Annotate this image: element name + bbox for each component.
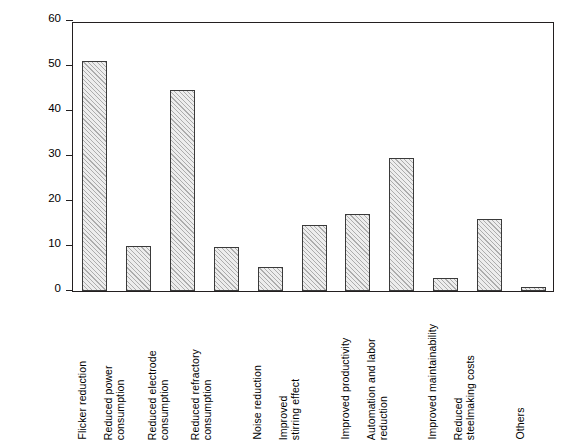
bar xyxy=(214,247,239,291)
bar-slot xyxy=(126,23,151,291)
y-axis-tick: 0 xyxy=(66,290,73,291)
bar-slot xyxy=(345,23,370,291)
x-axis-label-text: Others xyxy=(515,408,527,440)
x-axis-label-text: Noise reduction xyxy=(252,366,264,440)
bar-slot xyxy=(389,23,414,291)
bar xyxy=(170,90,195,291)
bar xyxy=(126,246,151,291)
x-axis-label: Others xyxy=(502,296,562,440)
x-axis-label-text: Reducedsteelmaking costs xyxy=(453,355,476,440)
bar xyxy=(258,267,283,291)
x-axis-label-text: Automation and laborreduction xyxy=(366,338,389,440)
x-axis-label-text: Improved maintainability xyxy=(427,324,439,440)
x-axis-label-text: Improvedstirring effect xyxy=(278,379,301,440)
y-axis-tick: 60 xyxy=(66,20,73,21)
y-axis-tick: 10 xyxy=(66,245,73,246)
bar-slot xyxy=(82,23,107,291)
bar xyxy=(302,225,327,291)
x-axis-label-text: Reduced refractoryconsumption xyxy=(191,349,214,440)
y-axis-tick-label: 40 xyxy=(48,103,61,115)
bar xyxy=(521,287,546,291)
bar xyxy=(82,61,107,291)
bar-slot xyxy=(521,23,546,291)
y-axis-tick: 40 xyxy=(66,110,73,111)
x-axis-labels: Flicker reductionReduced powerconsumptio… xyxy=(72,296,554,440)
x-axis-label-text: Reduced powerconsumption xyxy=(103,365,126,440)
bar xyxy=(389,158,414,291)
plot-area: 0102030405060 xyxy=(72,22,554,292)
bar-slot xyxy=(477,23,502,291)
y-axis-tick: 20 xyxy=(66,200,73,201)
y-axis-tick-label: 10 xyxy=(48,238,61,250)
bar-slot xyxy=(302,23,327,291)
y-axis-tick: 30 xyxy=(66,155,73,156)
bar-slot xyxy=(170,23,195,291)
bar xyxy=(433,278,458,291)
bar-slot xyxy=(433,23,458,291)
y-axis-tick-label: 0 xyxy=(55,283,61,295)
y-axis-tick: 50 xyxy=(66,65,73,66)
y-axis-tick-label: 60 xyxy=(48,13,61,25)
x-axis-label-text: Flicker reduction xyxy=(77,361,89,440)
bar-chart: Evaluation 0102030405060 Flicker reducti… xyxy=(0,0,570,440)
bar xyxy=(345,214,370,291)
x-axis-label-text: Improved productivity xyxy=(339,338,351,440)
y-axis-tick-label: 20 xyxy=(48,193,61,205)
bar xyxy=(477,219,502,291)
x-axis-label-text: Reduced electrodeconsumption xyxy=(147,350,170,440)
y-axis-tick-label: 30 xyxy=(48,148,61,160)
bar-slot xyxy=(214,23,239,291)
bars-layer xyxy=(73,23,553,291)
bar-slot xyxy=(258,23,283,291)
y-axis-tick-label: 50 xyxy=(48,58,61,70)
